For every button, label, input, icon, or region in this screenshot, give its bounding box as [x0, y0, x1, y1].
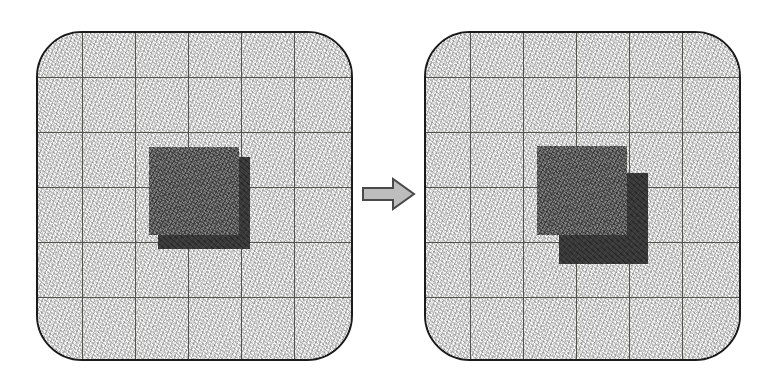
figure-canvas [0, 0, 776, 386]
panel-before [36, 31, 353, 361]
gray-square-before [149, 147, 239, 235]
transformation-arrow [362, 177, 416, 211]
arrow-shape [363, 179, 414, 209]
gray-square-after [537, 146, 627, 235]
right-arrow-icon [362, 177, 416, 211]
panel-after [424, 31, 741, 361]
